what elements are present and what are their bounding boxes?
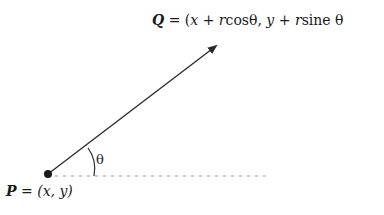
point-q-r2: r: [295, 12, 302, 28]
point-q-plus1: +: [203, 12, 215, 28]
point-p-dot: [44, 170, 52, 178]
point-q-plus2: +: [279, 12, 291, 28]
point-q-cos: cosθ,: [226, 12, 262, 28]
angle-theta-label: θ: [96, 152, 104, 167]
point-p-label: P = (x, y): [6, 183, 73, 199]
point-q-y: y: [266, 12, 274, 28]
point-q-r1: r: [219, 12, 226, 28]
point-q-label: Q = (x + rcosθ, y + rsine θ: [152, 12, 343, 28]
point-p-equals: =: [21, 183, 33, 199]
angle-arc: [88, 148, 95, 176]
point-p-expr: (x, y): [37, 183, 73, 199]
point-q-equals: =: [169, 12, 181, 28]
point-q-sine: sine θ: [302, 12, 344, 28]
point-q-name: Q: [152, 12, 164, 28]
vector-arrow: [48, 46, 216, 174]
point-q-x: x: [190, 12, 198, 28]
point-p-name: P: [6, 183, 17, 199]
